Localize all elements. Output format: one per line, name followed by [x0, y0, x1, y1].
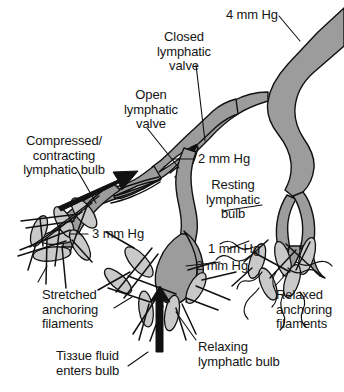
label-relaxed-anchoring-filaments: Relaxed anchoring filaments: [276, 288, 344, 332]
label-pressure-4mmhg: 4 mm Hg: [196, 8, 278, 23]
label-relaxing-lymphatic-bulb: Relaxing lymphatlc bulb: [198, 340, 310, 369]
leader-pressure-4: [279, 16, 300, 41]
label-resting-lymphatic-bulb: Resting lymphatic bulb: [190, 178, 276, 222]
label-stretched-anchoring-filaments: Stretched anchoring filaments: [42, 288, 132, 332]
label-pressure-2mmhg-middle: 2 mm Hg: [198, 152, 272, 167]
main-collecting-trunk: [267, 8, 344, 199]
lymphatic-diagram-figure: 4 mm Hg Closed lymphatic valve Open lymp…: [0, 0, 344, 392]
label-closed-lymphatic-valve: Closed lymphatic valve: [140, 30, 228, 74]
label-tissue-fluid-enters-bulb: Tiззue fluid enters bulb: [56, 349, 146, 378]
label-pressure-1mmhg: 1 mm Hg: [208, 242, 280, 257]
label-pressure-3mmhg: 3 mm Hg: [92, 227, 164, 242]
label-compressed-contracting-bulb: Compressed/ contracting lymphatic bulb: [6, 134, 122, 178]
label-open-lymphatic-valve: Open lymphatic valve: [108, 88, 194, 132]
label-pressure-negative-2mmhg: 2 mm Hg: [196, 259, 268, 274]
